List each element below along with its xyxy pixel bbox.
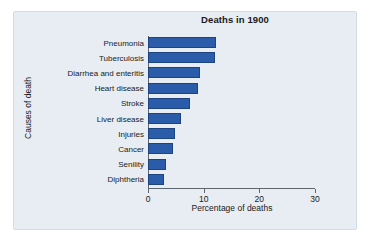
category-label: Cancer <box>118 144 144 153</box>
bar-row: Tuberculosis <box>148 52 315 63</box>
bar-row: Stroke <box>148 98 315 109</box>
bar <box>148 128 175 139</box>
bar-row: Liver disease <box>148 113 315 124</box>
chart-title: Deaths in 1900 <box>150 14 320 25</box>
x-axis-tick <box>148 189 149 193</box>
bar-row: Senility <box>148 159 315 170</box>
figure-container: Deaths in 1900 Causes of death Percentag… <box>0 0 371 242</box>
bar-row: Diphtheria <box>148 174 315 185</box>
category-label: Pneumonia <box>104 38 144 47</box>
bar <box>148 98 190 109</box>
x-axis-tick <box>315 189 316 193</box>
x-axis-title: Percentage of deaths <box>147 203 317 213</box>
bar-row: Injuries <box>148 128 315 139</box>
x-axis-tick-label: 20 <box>247 194 271 204</box>
bar <box>148 159 166 170</box>
bar-row: Heart disease <box>148 83 315 94</box>
bar <box>148 67 200 78</box>
category-label: Injuries <box>118 129 144 138</box>
x-axis-tick <box>204 189 205 193</box>
bar-row: Pneumonia <box>148 37 315 48</box>
bar <box>148 143 173 154</box>
category-label: Heart disease <box>95 84 144 93</box>
category-label: Stroke <box>121 99 144 108</box>
category-label: Diarrhea and enteritis <box>68 68 144 77</box>
x-axis-tick <box>259 189 260 193</box>
category-label: Tuberculosis <box>99 53 144 62</box>
bar <box>148 52 215 63</box>
x-axis-line <box>148 188 315 189</box>
bar-row: Cancer <box>148 143 315 154</box>
bar <box>148 113 181 124</box>
bar <box>148 37 216 48</box>
x-axis-tick-label: 0 <box>136 194 160 204</box>
x-axis-tick-label: 10 <box>192 194 216 204</box>
bar <box>148 174 164 185</box>
x-axis-tick-label: 30 <box>303 194 327 204</box>
plot-area: PneumoniaTuberculosisDiarrhea and enteri… <box>148 36 315 188</box>
category-label: Liver disease <box>97 114 144 123</box>
bar <box>148 83 198 94</box>
category-label: Senility <box>118 160 144 169</box>
y-axis-title: Causes of death <box>23 58 33 158</box>
bar-row: Diarrhea and enteritis <box>148 67 315 78</box>
category-label: Diphtheria <box>108 175 144 184</box>
